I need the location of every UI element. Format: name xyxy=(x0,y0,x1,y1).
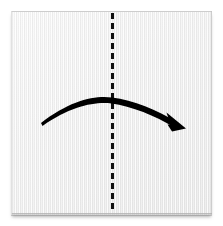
paper-edge-top xyxy=(11,11,212,12)
origami-figure: Origami fold step Square sheet of paper … xyxy=(0,0,223,226)
paper-sheet: paper sheet xyxy=(11,11,212,215)
fold-line-caption: valley fold xyxy=(0,0,1,1)
figure-title: Origami fold step xyxy=(0,0,1,1)
paper-edge-left xyxy=(11,11,12,215)
figure-description: Square sheet of paper with a vertical da… xyxy=(0,0,1,1)
fold-arrow-caption: fold in half xyxy=(0,0,1,1)
paper-edge-bottom xyxy=(11,213,212,215)
paper-edge-right xyxy=(211,11,212,215)
